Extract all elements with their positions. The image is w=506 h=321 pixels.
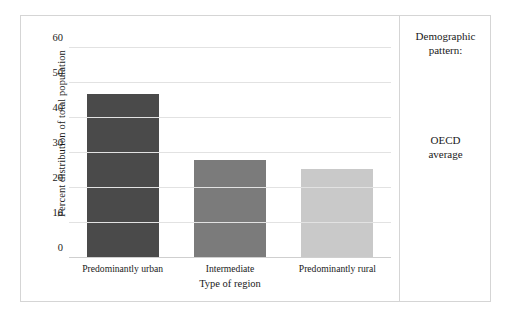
x-tick-label-0: Predominantly urban — [82, 263, 163, 274]
x-tick-label-1: Intermediate — [206, 263, 254, 274]
legend-entry-line-2: average — [403, 148, 488, 162]
gridline-30 — [69, 152, 391, 153]
legend-entry-oecd-average: OECD average — [400, 134, 491, 162]
bar-predominantly-urban — [87, 94, 159, 259]
gridline-50 — [69, 82, 391, 83]
y-tick-label-40: 40 — [53, 102, 64, 113]
x-tick-label-2: Predominantly rural — [299, 263, 376, 274]
y-tick-label-30: 30 — [53, 137, 64, 148]
legend-entry-line-1: OECD — [403, 134, 488, 148]
bar-intermediate — [194, 160, 266, 258]
y-tick-label-0: 0 — [58, 242, 63, 253]
y-tick-label-60: 60 — [53, 32, 64, 43]
y-tick-label-10: 10 — [53, 207, 64, 218]
y-tick-label-50: 50 — [53, 67, 64, 78]
screenshot-canvas: Percent distribution of total population… — [0, 0, 506, 321]
gridline-10 — [69, 222, 391, 223]
gridline-20 — [69, 187, 391, 188]
chart-frame: Percent distribution of total population… — [20, 15, 491, 302]
bars-layer — [69, 48, 391, 258]
legend-panel: Demographic pattern: OECD average — [399, 16, 491, 301]
x-axis-title: Type of region — [69, 278, 391, 289]
legend-title-line-2: pattern: — [403, 44, 488, 58]
legend-title-line-1: Demographic — [403, 30, 488, 44]
bar-predominantly-rural — [301, 169, 373, 258]
grid-box: 0102030405060Predominantly urbanIntermed… — [69, 48, 391, 258]
gridline-40 — [69, 117, 391, 118]
y-tick-label-20: 20 — [53, 172, 64, 183]
plot-area: Percent distribution of total population… — [21, 16, 399, 301]
gridline-60 — [69, 47, 391, 48]
legend-title: Demographic pattern: — [400, 30, 491, 58]
gridline-0 — [69, 257, 391, 258]
